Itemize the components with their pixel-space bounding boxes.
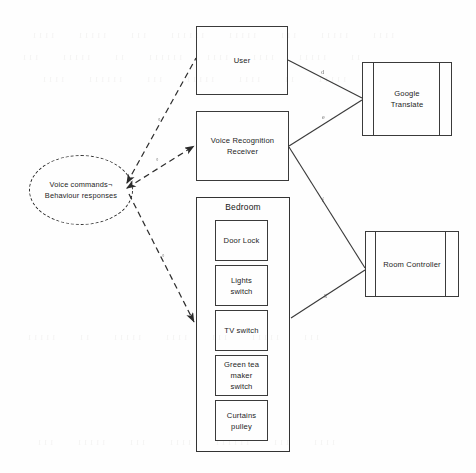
device-green-tea-line1: Green tea bbox=[224, 360, 259, 369]
edge-voicecommands-user bbox=[127, 58, 196, 183]
device-curtains-pulley[interactable]: Curtains pulley bbox=[215, 400, 268, 441]
edge-receiver-googletranslate bbox=[289, 100, 362, 146]
device-door-lock-label: Door Lock bbox=[221, 235, 263, 246]
edge-bedroom-roomcontroller bbox=[291, 270, 365, 318]
group-bedroom[interactable]: Bedroom Door Lock Lights switch TV switc… bbox=[196, 197, 290, 452]
device-lights-switch[interactable]: Lights switch bbox=[215, 265, 268, 306]
edge-mark-receiver-googletranslate: e bbox=[322, 114, 325, 120]
node-voice-commands-line1: Voice commands¬ bbox=[50, 180, 113, 189]
edge-mark-receiver-roomcontroller: f bbox=[322, 197, 324, 203]
node-room-controller[interactable]: Room Controller bbox=[365, 231, 459, 297]
component-left-bar bbox=[375, 231, 376, 298]
node-google-translate-line1: Google bbox=[394, 89, 419, 98]
edge-mark-voicecommands-bedroom: ° bbox=[162, 254, 164, 260]
group-bedroom-title: Bedroom bbox=[197, 202, 289, 212]
node-voice-recognition-receiver[interactable]: Voice Recognition Receiver bbox=[196, 111, 289, 181]
device-green-tea-maker-switch[interactable]: Green tea maker switch bbox=[215, 355, 268, 396]
node-voice-recognition-receiver-label: Voice Recognition Receiver bbox=[208, 135, 277, 157]
device-lights-switch-label: Lights switch bbox=[216, 275, 267, 297]
node-receiver-line1: Voice Recognition bbox=[211, 136, 274, 145]
device-tv-switch-label: TV switch bbox=[221, 325, 261, 336]
device-tv-switch[interactable]: TV switch bbox=[215, 310, 268, 351]
device-door-lock[interactable]: Door Lock bbox=[215, 220, 268, 261]
node-voice-commands[interactable]: Voice commands¬ Behaviour responses bbox=[29, 155, 133, 225]
diagram-canvas: ıııı ııııı ııı ııııı ıııııı ııı ııııı ıı… bbox=[0, 0, 476, 473]
device-curtains-pulley-label: Curtains pulley bbox=[224, 410, 259, 432]
edge-receiver-roomcontroller bbox=[289, 147, 365, 268]
edge-mark-user-googletranslate: d bbox=[321, 69, 324, 75]
component-right-bar bbox=[445, 231, 446, 298]
device-curtains-line1: Curtains bbox=[227, 411, 256, 420]
edge-mark-voicecommands-user: ° bbox=[158, 118, 160, 124]
device-green-tea-line2: maker switch bbox=[231, 371, 253, 391]
edge-mark-voicecommands-receiver: ° bbox=[156, 158, 158, 164]
edge-mark-bedroom-roomcontroller: g bbox=[324, 292, 327, 298]
node-user-label: User bbox=[231, 55, 254, 66]
node-google-translate-line2: Translate bbox=[391, 100, 424, 109]
node-room-controller-label: Room Controller bbox=[380, 259, 444, 270]
node-google-translate[interactable]: Google Translate bbox=[362, 62, 452, 136]
component-right-bar bbox=[439, 62, 440, 137]
node-receiver-line2: Receiver bbox=[227, 147, 258, 156]
node-google-translate-label: Google Translate bbox=[388, 88, 427, 110]
component-left-bar bbox=[373, 62, 374, 137]
node-voice-commands-line2: Behaviour responses bbox=[45, 191, 117, 200]
device-curtains-line2: pulley bbox=[231, 422, 252, 431]
edge-user-googletranslate bbox=[288, 60, 362, 98]
edge-voicecommands-receiver bbox=[127, 146, 194, 188]
node-voice-commands-label: Voice commands¬ Behaviour responses bbox=[42, 179, 120, 201]
node-user[interactable]: User bbox=[196, 26, 288, 95]
device-green-tea-maker-switch-label: Green tea maker switch bbox=[216, 359, 267, 392]
